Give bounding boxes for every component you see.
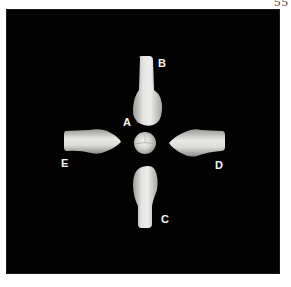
figure-panel: A B C D E	[7, 10, 279, 273]
label-e: E	[61, 157, 68, 169]
tooth-view-d	[169, 129, 225, 156]
label-b: B	[158, 57, 166, 69]
label-a: A	[123, 116, 131, 128]
tooth-view-c	[133, 166, 158, 228]
tooth-views-graphic	[7, 10, 279, 273]
label-c: C	[161, 213, 169, 225]
label-d: D	[215, 159, 223, 171]
tooth-view-a	[134, 132, 156, 154]
tooth-view-e	[64, 129, 121, 153]
page-number: 55	[274, 0, 289, 10]
